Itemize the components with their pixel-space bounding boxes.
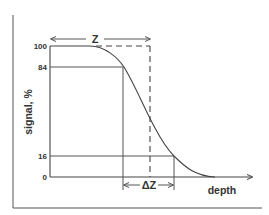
z-label: Z xyxy=(92,33,99,45)
y-axis-title: signal, % xyxy=(22,89,34,135)
delta-z-label: ΔZ xyxy=(142,179,157,191)
y-tick-0: 0 xyxy=(43,173,48,182)
y-tick-16: 16 xyxy=(38,152,47,161)
y-tick-84: 84 xyxy=(38,63,47,72)
depth-profile-diagram: Z ΔZ 100 84 16 0 signal, % depth xyxy=(0,0,269,215)
signal-curve xyxy=(50,46,215,177)
y-tick-100: 100 xyxy=(34,42,48,51)
x-axis-title: depth xyxy=(208,184,237,196)
